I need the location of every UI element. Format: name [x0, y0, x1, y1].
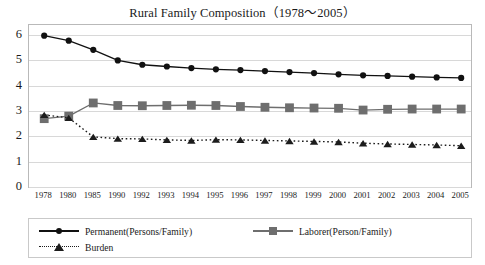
legend-circle-icon [39, 225, 79, 237]
x-axis-tick-label: 1985 [84, 190, 101, 200]
data-point [162, 101, 171, 110]
data-point [383, 105, 392, 114]
y-axis-tick-label: 5 [2, 53, 22, 65]
legend-entry[interactable]: Permanent(Persons/Family) [39, 225, 192, 237]
data-point [89, 99, 98, 108]
chart-figure: Rural Family Composition（1978～2005） 0123… [0, 0, 485, 265]
x-axis-tick-label: 1978 [35, 190, 52, 200]
x-axis: 1978198019851990199219931994199519961997… [28, 190, 472, 206]
data-point [457, 105, 466, 114]
y-axis-tick-label: 0 [2, 180, 22, 192]
data-point [139, 62, 145, 68]
y-axis-tick-label: 1 [2, 155, 22, 167]
data-point [458, 75, 464, 81]
y-axis-tick-label: 6 [2, 28, 22, 40]
x-axis-tick-label: 2005 [452, 190, 469, 200]
x-axis-tick-label: 1993 [157, 190, 174, 200]
chart-legend: Permanent(Persons/Family)Laborer(Person/… [28, 218, 472, 258]
series-circle [41, 33, 464, 81]
x-axis-tick-label: 1999 [304, 190, 321, 200]
legend-triangle-icon [39, 241, 79, 253]
series-layer [29, 25, 471, 187]
data-point [434, 74, 440, 80]
data-point [113, 101, 122, 110]
series-square [40, 99, 466, 123]
series-line [44, 36, 461, 78]
gridline [29, 187, 471, 188]
data-point [188, 65, 194, 71]
x-axis-tick-label: 2002 [378, 190, 395, 200]
legend-entry[interactable]: Laborer(Person/Family) [253, 225, 392, 237]
data-point [408, 105, 417, 114]
chart-title: Rural Family Composition（1978～2005） [0, 2, 485, 21]
data-point [311, 70, 317, 76]
legend-label: Laborer(Person/Family) [299, 226, 392, 237]
data-point [262, 68, 268, 74]
series-line [44, 103, 461, 119]
data-point [432, 105, 441, 114]
x-axis-tick-label: 1995 [206, 190, 223, 200]
y-axis-tick-label: 2 [2, 129, 22, 141]
data-point [114, 135, 122, 141]
y-axis-tick-label: 3 [2, 104, 22, 116]
x-axis-tick-label: 2003 [403, 190, 420, 200]
plot-area [28, 24, 472, 188]
y-axis-tick-label: 4 [2, 79, 22, 91]
legend-square-icon [253, 225, 293, 237]
data-point [90, 47, 96, 53]
x-axis-tick-label: 2000 [329, 190, 346, 200]
data-point [408, 141, 416, 147]
x-axis-tick-label: 2001 [353, 190, 370, 200]
x-axis-tick-label: 1992 [133, 190, 150, 200]
data-point [409, 74, 415, 80]
x-axis-tick-label: 2004 [427, 190, 444, 200]
series-line [44, 115, 461, 146]
data-point [187, 101, 196, 110]
data-point [115, 57, 121, 63]
data-point [359, 106, 368, 115]
x-axis-tick-label: 1998 [280, 190, 297, 200]
series-triangle [40, 112, 465, 149]
legend-entry[interactable]: Burden [39, 241, 113, 253]
data-point [212, 101, 221, 110]
legend-label: Permanent(Persons/Family) [85, 226, 192, 237]
x-axis-tick-label: 1994 [182, 190, 199, 200]
x-axis-tick-label: 1990 [108, 190, 125, 200]
data-point [310, 104, 319, 113]
data-point [237, 67, 243, 73]
data-point [360, 72, 366, 78]
x-axis-tick-label: 1996 [231, 190, 248, 200]
data-point [261, 103, 270, 112]
data-point [66, 38, 72, 44]
data-point [89, 134, 97, 140]
data-point [334, 104, 343, 113]
data-point [385, 73, 391, 79]
legend-label: Burden [85, 242, 113, 253]
data-point [213, 66, 219, 72]
data-point [285, 103, 294, 112]
data-point [138, 101, 147, 110]
data-point [41, 33, 47, 39]
data-point [335, 71, 341, 77]
data-point [164, 63, 170, 69]
data-point [236, 102, 245, 111]
x-axis-tick-label: 1997 [255, 190, 272, 200]
data-point [286, 69, 292, 75]
x-axis-tick-label: 1980 [59, 190, 76, 200]
data-point [261, 137, 269, 143]
